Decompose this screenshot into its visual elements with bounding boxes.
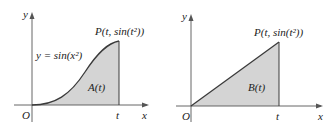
t-label: t <box>116 109 120 121</box>
right-figure: y x O t P(t, sin(t²)) B(t) <box>176 10 323 122</box>
point-label: P(t, sin(t²)) <box>253 26 303 39</box>
y-axis-label: y <box>181 10 187 22</box>
x-axis-label: x <box>141 109 147 121</box>
x-axis-label: x <box>317 110 323 122</box>
y-axis-arrow-icon <box>30 12 35 19</box>
y-axis-label: y <box>22 8 28 20</box>
point-label: P(t, sin(t²)) <box>94 25 144 38</box>
region-label: B(t) <box>248 81 265 94</box>
left-figure: y x O t P(t, sin(t²)) y = sin(x²) A(t) <box>14 8 149 122</box>
origin-label: O <box>182 110 190 122</box>
x-axis-arrow-icon <box>316 104 323 109</box>
origin-label: O <box>22 109 30 121</box>
y-axis-arrow-icon <box>189 14 194 21</box>
curve-label: y = sin(x²) <box>35 49 82 62</box>
t-label: t <box>276 110 280 122</box>
x-axis-arrow-icon <box>142 103 149 108</box>
region-label: A(t) <box>87 81 105 94</box>
